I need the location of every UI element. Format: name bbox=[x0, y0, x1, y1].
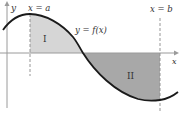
curve-label: y = f(x) bbox=[74, 25, 107, 35]
diagram-svg: y x x = a x = b y = f(x) I II bbox=[0, 0, 181, 113]
y-axis-arrow-icon bbox=[5, 1, 10, 6]
region-II-label: II bbox=[127, 71, 135, 81]
region-I-label: I bbox=[43, 34, 47, 44]
area-between-curve-diagram: y x x = a x = b y = f(x) I II bbox=[0, 0, 181, 113]
x-axis-label: x bbox=[172, 57, 177, 66]
y-axis-label: y bbox=[10, 3, 17, 13]
x-equals-b-label: x = b bbox=[150, 4, 173, 14]
region-II-shading bbox=[83, 53, 160, 101]
x-axis-arrow-icon bbox=[174, 51, 179, 56]
x-equals-a-label: x = a bbox=[28, 3, 50, 13]
